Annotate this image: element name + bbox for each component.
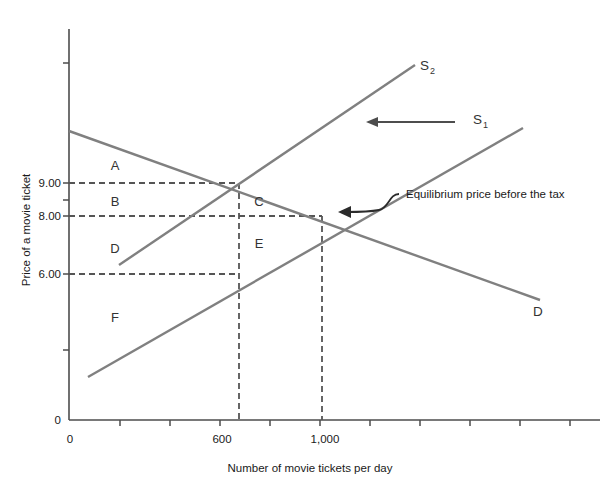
callout-arrow-head — [338, 206, 351, 218]
curve-label-s1: S — [473, 112, 482, 127]
equilibrium-callout-arrow — [338, 194, 399, 218]
supply-demand-chart: 9.00 8.00 6.00 0 0 600 1,000 Price of a … — [0, 0, 613, 493]
equilibrium-annotation-text: Equilibrium price before the tax — [406, 188, 565, 200]
x-tick-label-1000: 1,000 — [311, 433, 340, 445]
x-tick-labels: 0 600 1,000 — [67, 433, 340, 445]
curve-label-d: D — [533, 304, 543, 319]
y-tick-label-0: 0 — [55, 414, 61, 426]
guide-lines-group — [69, 183, 322, 420]
y-tick-label-9: 9.00 — [39, 177, 61, 189]
y-axis-ticks — [63, 63, 69, 350]
curve-label-s2: S — [420, 58, 429, 73]
curve-sublabel-s2: 2 — [430, 66, 435, 76]
x-tick-label-600: 600 — [212, 433, 231, 445]
x-tick-label-0: 0 — [67, 433, 73, 445]
region-label-e: E — [255, 236, 264, 251]
y-tick-label-8: 8.00 — [39, 210, 61, 222]
region-label-c: C — [254, 194, 263, 209]
region-label-f: F — [111, 310, 119, 325]
x-axis-ticks — [120, 420, 570, 426]
axes-group — [69, 29, 600, 420]
supply-curve-s1 — [88, 128, 523, 377]
supply-shift-arrow — [366, 117, 455, 127]
y-tick-labels: 9.00 8.00 6.00 0 — [39, 177, 61, 426]
shift-arrow-head — [366, 117, 378, 127]
region-label-a: A — [111, 158, 120, 173]
y-tick-label-6: 6.00 — [39, 268, 61, 280]
region-label-d: D — [110, 241, 119, 256]
curve-sublabel-s1: 1 — [483, 120, 488, 130]
curves-group — [69, 65, 540, 377]
y-axis-title: Price of a movie ticket — [20, 173, 32, 286]
region-label-b: B — [111, 194, 120, 209]
chart-canvas: 9.00 8.00 6.00 0 0 600 1,000 Price of a … — [0, 0, 613, 493]
x-axis-title: Number of movie tickets per day — [228, 462, 393, 474]
